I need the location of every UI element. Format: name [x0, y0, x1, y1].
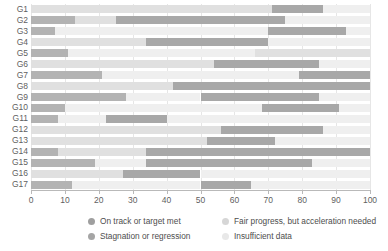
bar-segment: [31, 115, 58, 123]
y-axis-label: G16: [12, 168, 28, 179]
gridline: [370, 4, 371, 190]
bar-segment: [68, 49, 254, 57]
bar-segment: [31, 159, 95, 167]
bar-row: [31, 48, 370, 59]
x-tick-label: 30: [128, 195, 137, 205]
y-axis-label: G8: [17, 81, 28, 92]
stacked-bar: [31, 38, 370, 46]
bar-segment: [31, 93, 126, 101]
bar-segment: [214, 60, 319, 68]
bar-segment: [126, 93, 201, 101]
stacked-bar-chart: G1G2G3G4G5G6G7G8G9G10G11G12G13G14G15G16G…: [0, 0, 388, 251]
y-axis-label: G5: [17, 48, 28, 59]
stacked-bar: [31, 60, 370, 68]
bar-segment: [31, 82, 173, 90]
x-tick-mark: [167, 190, 168, 194]
bar-rows: [31, 4, 370, 190]
x-tick-mark: [370, 190, 371, 194]
bar-segment: [201, 170, 371, 178]
bar-segment: [207, 137, 275, 145]
bar-segment: [116, 16, 286, 24]
x-tick-label: 70: [264, 195, 273, 205]
bar-row: [31, 168, 370, 179]
bar-segment: [31, 5, 272, 13]
bar-segment: [95, 159, 146, 167]
legend-item[interactable]: Stagnation or regression: [88, 231, 190, 241]
legend-label: Stagnation or regression: [100, 231, 190, 241]
y-axis-label: G9: [17, 92, 28, 103]
y-axis-label: G1: [17, 4, 28, 15]
bar-segment: [146, 148, 370, 156]
x-tick-mark: [133, 190, 134, 194]
legend-item[interactable]: Fair progress, but acceleration needed: [222, 216, 376, 226]
bar-segment: [31, 16, 75, 24]
stacked-bar: [31, 115, 370, 123]
bar-row: [31, 124, 370, 135]
bar-row: [31, 113, 370, 124]
x-tick-label: 60: [230, 195, 239, 205]
stacked-bar: [31, 16, 370, 24]
bar-segment: [255, 49, 370, 57]
bar-segment: [106, 115, 167, 123]
legend-label: Insufficient data: [234, 231, 292, 241]
bar-segment: [31, 49, 68, 57]
stacked-bar: [31, 126, 370, 134]
bar-segment: [299, 71, 370, 79]
x-tick-label: 100: [363, 195, 377, 205]
bar-segment: [31, 170, 123, 178]
bar-row: [31, 179, 370, 190]
x-tick-label: 10: [60, 195, 69, 205]
plot-area: G1G2G3G4G5G6G7G8G9G10G11G12G13G14G15G16G…: [0, 0, 388, 196]
bar-segment: [146, 38, 268, 46]
stacked-bar: [31, 159, 370, 167]
y-axis-label: G12: [12, 124, 28, 135]
bar-segment: [167, 115, 370, 123]
bar-segment: [285, 16, 370, 24]
bar-segment: [65, 104, 262, 112]
bar-row: [31, 81, 370, 92]
bar-segment: [31, 60, 214, 68]
x-tick-label: 50: [196, 195, 205, 205]
legend-swatch-icon: [88, 233, 95, 240]
y-axis-labels: G1G2G3G4G5G6G7G8G9G10G11G12G13G14G15G16G…: [0, 4, 28, 190]
bar-segment: [31, 71, 102, 79]
y-axis-label: G4: [17, 37, 28, 48]
legend-label: Fair progress, but acceleration needed: [234, 216, 376, 226]
bar-segment: [268, 38, 370, 46]
bar-row: [31, 15, 370, 26]
bar-row: [31, 102, 370, 113]
stacked-bar: [31, 148, 370, 156]
x-tick-label: 90: [331, 195, 340, 205]
x-tick-mark: [99, 190, 100, 194]
legend-item[interactable]: Insufficient data: [222, 231, 292, 241]
bar-segment: [262, 104, 340, 112]
legend-item[interactable]: On track or target met: [88, 216, 181, 226]
bar-segment: [31, 137, 207, 145]
x-tick-mark: [201, 190, 202, 194]
stacked-bar: [31, 27, 370, 35]
bar-segment: [31, 27, 55, 35]
bar-segment: [173, 82, 370, 90]
legend-label: On track or target met: [100, 216, 181, 226]
y-axis-label: G14: [12, 146, 28, 157]
stacked-bar: [31, 93, 370, 101]
y-axis-label: G6: [17, 59, 28, 70]
bar-segment: [319, 60, 370, 68]
y-axis-label: G15: [12, 157, 28, 168]
bar-segment: [72, 181, 201, 189]
bar-segment: [58, 115, 105, 123]
bar-segment: [319, 93, 370, 101]
stacked-bar: [31, 49, 370, 57]
y-axis-label: G17: [12, 179, 28, 190]
y-axis-label: G7: [17, 70, 28, 81]
y-axis-label: G10: [12, 102, 28, 113]
legend-swatch-icon: [222, 218, 229, 225]
bar-row: [31, 4, 370, 15]
x-tick-label: 0: [29, 195, 34, 205]
bar-segment: [31, 148, 58, 156]
chart-legend: On track or target metFair progress, but…: [0, 216, 388, 251]
bar-segment: [323, 126, 370, 134]
legend-swatch-icon: [88, 218, 95, 225]
bar-segment: [75, 16, 116, 24]
x-tick-label: 80: [297, 195, 306, 205]
